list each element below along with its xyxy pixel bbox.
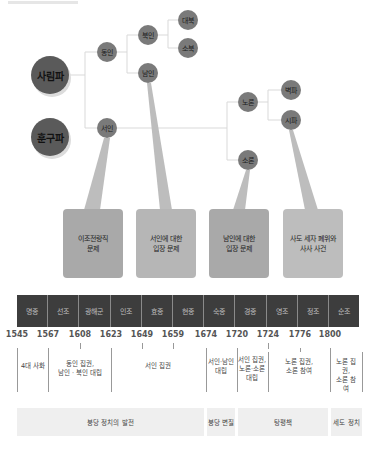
tick bbox=[300, 348, 301, 352]
era-divider bbox=[111, 352, 112, 392]
year-label: 1649 bbox=[131, 330, 153, 339]
node-hungu: 훈구파 bbox=[31, 118, 69, 156]
era-divider bbox=[206, 352, 207, 392]
node-sobuk: 소북 bbox=[178, 38, 198, 58]
callout-namin-stance: 남인에 대한 입장 문제 bbox=[209, 209, 269, 278]
reign-yeongjo: 영조 bbox=[267, 295, 298, 327]
era-note-noron-2: 노론 집권, 소론 참여 bbox=[333, 358, 359, 394]
reign-injo: 인조 bbox=[111, 295, 142, 327]
reign-hyeonjong: 현종 bbox=[173, 295, 204, 327]
reign-hyojong: 효종 bbox=[142, 295, 173, 327]
era-divider bbox=[268, 352, 269, 392]
era-divider bbox=[48, 352, 49, 392]
year-label: 1724 bbox=[257, 330, 279, 339]
node-sarim: 사림파 bbox=[31, 56, 69, 94]
tick bbox=[142, 343, 143, 349]
node-bukin: 북인 bbox=[138, 25, 158, 45]
era-note-seoin-namin: 서인·남인 대립 bbox=[208, 358, 234, 376]
year-axis: 1545 1567 1608 1623 1649 1659 1674 1720 … bbox=[0, 330, 372, 342]
reign-bar: 명종 선조 광해군 인조 효종 현종 숙종 경종 영조 정조 순조 bbox=[17, 295, 359, 327]
year-label: 1776 bbox=[289, 330, 311, 339]
callout-seoin-stance: 서인에 대한 입장 문제 bbox=[136, 209, 196, 278]
tick bbox=[268, 343, 269, 349]
era-divider bbox=[330, 352, 331, 392]
year-label: 1674 bbox=[195, 330, 217, 339]
callout-ijo-jeongnang: 이조전랑직 문제 bbox=[63, 209, 123, 278]
year-label: 1608 bbox=[69, 330, 91, 339]
reign-sukjong: 숙종 bbox=[204, 295, 235, 327]
phase-degeneration: 붕당 변질 bbox=[207, 408, 235, 436]
phase-sedo: 세도 정치 bbox=[331, 408, 362, 436]
year-label: 1623 bbox=[100, 330, 122, 339]
reign-sunjo: 순조 bbox=[329, 295, 359, 327]
node-noron: 노론 bbox=[238, 92, 258, 112]
year-label: 1545 bbox=[6, 330, 28, 339]
node-dongin: 동인 bbox=[97, 42, 117, 62]
era-divider bbox=[362, 352, 363, 392]
reign-gyeongjong: 경종 bbox=[235, 295, 266, 327]
year-label: 1567 bbox=[37, 330, 59, 339]
phase-tangpyeong: 탕평책 bbox=[238, 408, 328, 436]
tick bbox=[173, 343, 174, 349]
node-daebuk: 대북 bbox=[178, 10, 198, 30]
era-note-seoin: 서인 집권 bbox=[145, 362, 171, 371]
year-label: 1800 bbox=[319, 330, 341, 339]
reign-jeongjo: 정조 bbox=[298, 295, 329, 327]
era-divider bbox=[17, 352, 18, 392]
tick bbox=[80, 343, 81, 349]
era-note-dongin: 동인 집권, 남인 · 북인 대립 bbox=[58, 360, 102, 378]
reign-myeongjong: 명종 bbox=[17, 295, 48, 327]
callout-sado-incident: 사도 세자 폐위와 사사 사건 bbox=[283, 209, 343, 278]
year-label: 1659 bbox=[162, 330, 184, 339]
era-note-noron-1: 노론 집권, 소론 참여 bbox=[285, 358, 313, 376]
node-seoin: 서인 bbox=[97, 118, 117, 138]
era-note-sahwa: 4대 사화 bbox=[21, 362, 45, 371]
reign-gwanghaegun: 광해군 bbox=[79, 295, 110, 327]
node-sipa: 시파 bbox=[281, 110, 301, 130]
reign-seonjo: 선조 bbox=[48, 295, 79, 327]
node-namin: 남인 bbox=[138, 63, 158, 83]
year-label: 1720 bbox=[226, 330, 248, 339]
node-soron: 소론 bbox=[238, 150, 258, 170]
era-note-noron-soron: 서인 집권, 노론·소론 대립 bbox=[238, 356, 266, 383]
node-byeokpa: 벽파 bbox=[281, 80, 301, 100]
phase-development: 붕당 정치의 발전 bbox=[17, 408, 204, 436]
